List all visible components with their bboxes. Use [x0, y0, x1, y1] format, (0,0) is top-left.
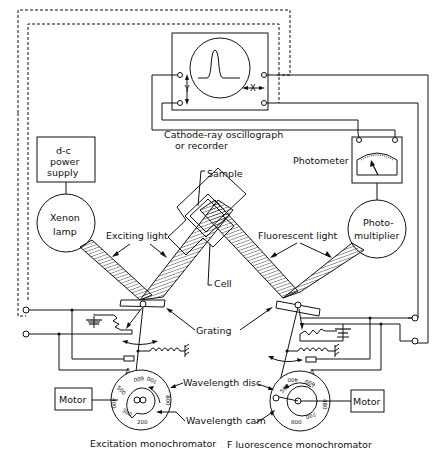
xenon-label-2: lamp [53, 226, 77, 237]
oscillograph: Y X Cathode-ray oscillograph or recorder [164, 33, 283, 151]
grating-label: Grating [196, 325, 232, 336]
exciting-light-label: Exciting light [106, 230, 168, 241]
photometer-label: Photometer [293, 155, 349, 166]
svg-text:800: 800 [165, 395, 171, 406]
cell-label: Cell [214, 278, 232, 289]
power-supply-label-1: d-c [56, 145, 71, 156]
photomultiplier-label-2: multiplier [354, 230, 399, 241]
xenon-label-1: Xenon [50, 212, 80, 223]
excitation-monochromator-label: Excitation monochromator [90, 438, 216, 449]
power-supply-label-2: power [50, 156, 79, 167]
light-annotations: Exciting light Fluorescent light [106, 230, 338, 258]
oscillograph-y-label: Y [184, 84, 191, 94]
sample-label: Sample [207, 168, 243, 179]
fluorescent-light-label: Fluorescent light [258, 230, 338, 241]
gratings: Grating [120, 300, 320, 336]
wavelength-disc-label: Wavelength disc [183, 377, 261, 388]
svg-text:400: 400 [287, 377, 298, 383]
power-supply-label-3: supply [47, 167, 79, 178]
svg-text:800: 800 [291, 419, 302, 425]
dc-power-supply: d-c power supply [37, 137, 95, 200]
oscillograph-x-label: X [250, 83, 256, 93]
wavelength-cam-label: Wavelength cam [186, 415, 266, 426]
photomultiplier-label-1: Photo- [363, 217, 394, 228]
svg-text:200: 200 [137, 419, 148, 425]
fluorescence-wavelength-disc: 500 400 600 480 700 800 [256, 371, 351, 431]
photometer: Photometer [293, 137, 402, 200]
motor-left-label: Motor [59, 394, 87, 405]
motor-right-label: Motor [353, 396, 381, 407]
oscillograph-label: Cathode-ray oscillograph [164, 129, 283, 140]
excitation-wavelength-disc: 400 500 600 700 800 300 200 Wavelength d… [92, 370, 266, 430]
spectrofluorometer-diagram: Y X Cathode-ray oscillograph or recorder… [0, 0, 439, 454]
fluorescence-monochromator-label: F luorescence monochromator [227, 439, 372, 450]
oscillograph-label-2: or recorder [175, 140, 228, 151]
